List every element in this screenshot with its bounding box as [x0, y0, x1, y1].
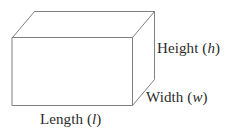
prism-top-face-edge [13, 12, 155, 38]
width-dimension-label: Width (w) [146, 89, 208, 105]
length-label-word: Length [40, 111, 83, 127]
width-label-variable: w [192, 89, 202, 105]
length-label-close-paren: ) [96, 111, 101, 127]
height-label-word: Height [157, 40, 198, 56]
prism-front-face-edge [13, 38, 133, 106]
height-label-close-paren: ) [215, 40, 220, 56]
height-dimension-label: Height (h) [157, 40, 220, 56]
width-label-word: Width [146, 89, 183, 105]
rectangular-prism-drawing [0, 0, 228, 133]
height-label-variable: h [207, 40, 215, 56]
length-dimension-label: Length (l) [40, 111, 101, 127]
width-label-close-paren: ) [202, 89, 207, 105]
figure-container: Height (h) Width (w) Length (l) [0, 0, 228, 133]
